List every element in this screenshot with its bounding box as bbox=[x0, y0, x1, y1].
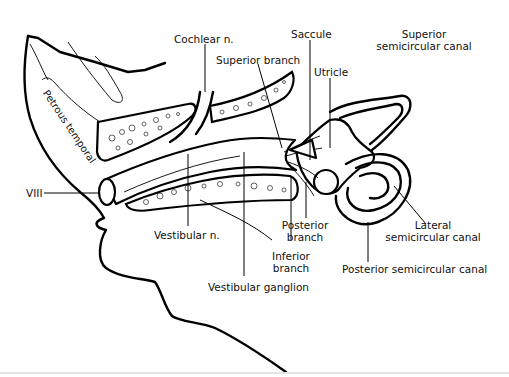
label-lateral-line2: semicircular canal bbox=[378, 231, 488, 243]
label-superior-semicircular-canal: Superior semicircular canal bbox=[354, 28, 494, 52]
label-saccule: Saccule bbox=[291, 28, 332, 40]
label-posterior-branch: Posterior branch bbox=[278, 219, 332, 243]
label-vestibular-ganglion: Vestibular ganglion bbox=[208, 281, 309, 293]
label-posterior-branch-line1: Posterior bbox=[278, 219, 332, 231]
label-inferior-branch-line2: branch bbox=[268, 262, 314, 274]
label-utricle: Utricle bbox=[314, 66, 348, 78]
label-superior-branch: Superior branch bbox=[216, 54, 300, 66]
label-posterior-semicircular-canal: Posterior semicircular canal bbox=[342, 263, 487, 275]
label-superior-line1: Superior bbox=[354, 28, 494, 40]
label-vestibular-n: Vestibular n. bbox=[154, 229, 220, 241]
labyrinth bbox=[284, 96, 410, 224]
label-cochlear-n: Cochlear n. bbox=[174, 33, 234, 45]
label-posterior-branch-line2: branch bbox=[278, 231, 332, 243]
label-lateral-line1: Lateral bbox=[378, 219, 488, 231]
bone-slab-upper-right bbox=[210, 72, 294, 122]
label-inferior-branch-line1: Inferior bbox=[268, 250, 314, 262]
bottom-divider bbox=[0, 372, 509, 374]
label-lateral-semicircular-canal: Lateral semicircular canal bbox=[378, 219, 488, 243]
label-viii: VIII bbox=[26, 187, 42, 199]
label-superior-line2: semicircular canal bbox=[354, 40, 494, 52]
label-inferior-branch: Inferior branch bbox=[268, 250, 314, 274]
